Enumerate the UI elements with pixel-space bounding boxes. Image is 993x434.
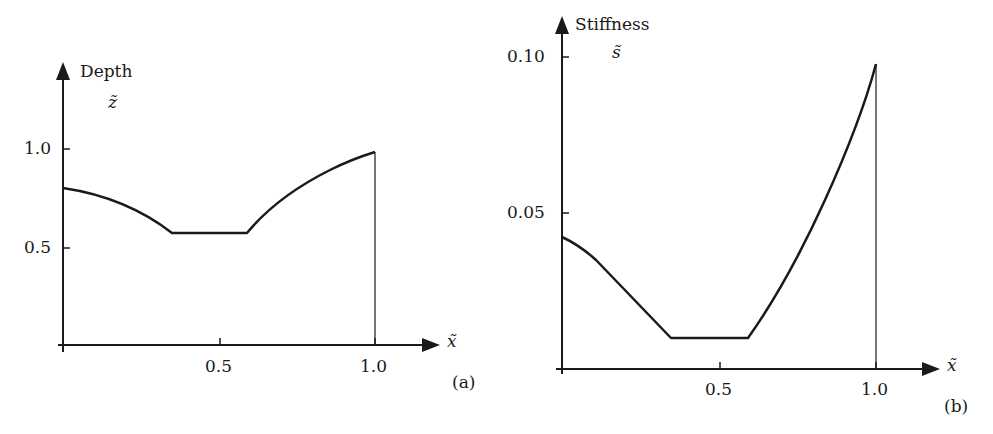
chart-b-panel-label: (b) — [944, 396, 968, 416]
chart-a-ytick-label-lo: 0.5 — [24, 237, 51, 257]
chart-b-xlabel-symbol: x̃ — [947, 355, 957, 375]
chart-b-ylabel-symbol: s̃ — [612, 42, 621, 62]
chart-b-ytick-label-lo: 0.05 — [507, 202, 545, 222]
chart-a-xlabel-symbol: x̃ — [447, 331, 457, 351]
chart-b-stiffness-curve — [562, 64, 876, 338]
chart-b-x-axis-arrow-icon — [922, 362, 940, 376]
chart-a-ytick-label-hi: 1.0 — [24, 138, 51, 158]
chart-b-xtick-label-mid: 0.5 — [705, 379, 732, 399]
chart-a-x-axis-arrow-icon — [422, 338, 440, 352]
chart-b-ylabel: Stiffness — [575, 14, 649, 34]
chart-a-ylabel-symbol: z̃ — [108, 92, 117, 112]
chart-a-ylabel: Depth — [80, 61, 132, 81]
chart-b-xtick-label-hi: 1.0 — [861, 379, 888, 399]
chart-a-xtick-label-mid: 0.5 — [205, 356, 232, 376]
chart-b — [555, 16, 940, 376]
figure: Depth z̃ 1.0 0.5 0.5 1.0 x̃ (a) Stiffnes… — [0, 0, 993, 434]
chart-a-panel-label: (a) — [452, 372, 475, 392]
chart-b-y-axis-arrow-icon — [555, 16, 569, 34]
chart-a-y-axis-arrow-icon — [56, 62, 70, 80]
chart-b-ytick-label-hi: 0.10 — [507, 46, 545, 66]
plot-canvas — [0, 0, 993, 434]
chart-a-xtick-label-hi: 1.0 — [360, 356, 387, 376]
chart-a-depth-curve — [63, 152, 375, 233]
